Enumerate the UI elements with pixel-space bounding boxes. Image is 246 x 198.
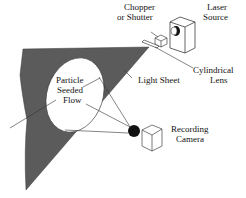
recording-label: Recording	[171, 124, 209, 134]
particle-label: Particle	[56, 75, 84, 85]
cylindrical-label: Cylindrical	[193, 65, 234, 75]
flow-label: Flow	[63, 95, 82, 105]
source-label: Source	[203, 12, 228, 22]
camera-lens-icon	[128, 125, 140, 137]
laser-lens-ring	[171, 27, 177, 35]
piv-diagram: Chopper or Shutter Laser Source Cylindri…	[0, 0, 246, 198]
chopper-leader	[151, 32, 158, 37]
seeded-label: Seeded	[57, 85, 83, 95]
lens-label: Lens	[210, 75, 228, 85]
recording-camera-icon	[142, 125, 162, 151]
camera-label: Camera	[176, 134, 204, 144]
laser-label: Laser	[207, 2, 227, 12]
shutter-label: or Shutter	[117, 12, 153, 22]
chopper-icon	[155, 35, 167, 47]
chopper-label: Chopper	[124, 2, 155, 12]
light-sheet-label: Light Sheet	[138, 75, 180, 85]
